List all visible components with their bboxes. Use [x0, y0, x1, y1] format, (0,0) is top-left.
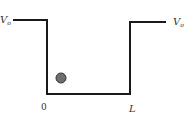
particle [56, 73, 66, 83]
left-potential-label: Vo [0, 14, 11, 26]
well-outline [13, 20, 166, 94]
right-potential-label: Vo [173, 16, 184, 28]
potential-well-diagram: Vo Vo 0 L [0, 0, 189, 122]
width-label: L [128, 103, 136, 114]
origin-label: 0 [41, 102, 47, 112]
